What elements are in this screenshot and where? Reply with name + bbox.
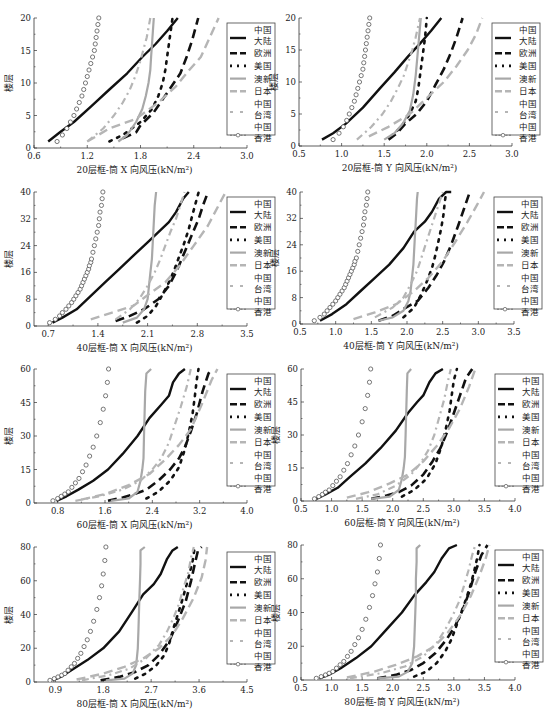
- y-tick-label: 40: [20, 187, 31, 197]
- legend-label: 中国: [254, 376, 272, 386]
- x-tick-label: 3.0: [447, 504, 461, 514]
- y-tick-label: 40: [287, 608, 298, 618]
- x-tick-label: 0.9: [49, 685, 63, 695]
- x-tick-label: 0.7: [41, 329, 55, 339]
- legend-label: 澳新: [519, 74, 537, 84]
- series-group: [48, 16, 218, 144]
- y-tick-label: 60: [287, 364, 298, 374]
- y-tick-label: 5: [291, 109, 296, 119]
- x-tick-label: 2.5: [417, 683, 431, 693]
- legend-label: 美国: [254, 61, 272, 71]
- figure-grid: 0.61.21.82.43.005101520楼层20层框-筒 X 向风压(kN…: [0, 0, 546, 711]
- y-tick-label: 80: [287, 540, 298, 550]
- legend-label: 中国: [521, 199, 539, 209]
- x-axis-label: 40层框-筒 X 向风压(kN/m²): [76, 342, 192, 353]
- x-axis-label: 40层框-筒 Y 向风压(kN/m²): [343, 340, 459, 351]
- legend-label: 香港: [254, 307, 272, 317]
- legend-label: 香港: [254, 133, 272, 143]
- y-tick-label: 80: [20, 542, 31, 552]
- legend-label: 美国: [519, 61, 537, 71]
- legend-label: 中国: [254, 99, 272, 109]
- x-tick-label: 2.5: [436, 327, 450, 337]
- series-group: [48, 545, 207, 683]
- legend-label: 香港: [522, 484, 540, 494]
- y-tick-label: 0: [26, 498, 31, 508]
- legend-label: 中国: [254, 473, 272, 483]
- y-tick-label: 15: [20, 46, 31, 56]
- y-axis-label: 楼层: [3, 74, 14, 92]
- x-tick-label: 1.0: [325, 504, 339, 514]
- y-tick-label: 30: [287, 430, 298, 440]
- x-tick-label: 1.0: [325, 683, 339, 693]
- x-axis-label: 60层框-筒 Y 向风压(kN/m²): [344, 517, 460, 528]
- series-美国: [402, 369, 457, 497]
- y-tick-label: 0: [292, 319, 297, 329]
- legend-label: 欧洲: [522, 399, 540, 409]
- x-tick-label: 1.8: [96, 685, 110, 695]
- legend-label: 中国: [254, 651, 272, 661]
- legend-label: 中国: [254, 628, 272, 638]
- series-欧洲: [379, 192, 470, 321]
- x-tick-label: 2.4: [187, 151, 201, 161]
- legend-label: 澳新: [522, 601, 540, 611]
- series-欧洲: [371, 369, 472, 499]
- legend-label: 大陆: [521, 210, 539, 220]
- x-tick-label: 1.2: [80, 151, 94, 161]
- x-tick-label: 3.5: [507, 327, 521, 337]
- x-tick-label: 3.5: [478, 683, 492, 693]
- series-中国香港: [51, 367, 111, 503]
- legend-label: 大陆: [254, 565, 272, 575]
- y-tick-label: 15: [287, 463, 298, 473]
- legend-label: 欧洲: [254, 222, 272, 232]
- y-tick-label: 16: [286, 266, 297, 276]
- legend-label: 欧洲: [254, 577, 272, 587]
- y-axis-label: 楼层: [269, 249, 280, 267]
- chart-c20y: 0.51.01.52.02.53.005101520楼层20层框-筒 Y 向风压…: [268, 13, 540, 173]
- legend-label: 美国: [254, 590, 272, 600]
- legend-label: 美国: [254, 235, 272, 245]
- legend: 中国大陆欧洲美国澳新日本中国台湾中国香港: [227, 197, 275, 317]
- y-tick-label: 20: [285, 13, 296, 23]
- chart-c60y: 0.51.01.52.02.53.03.54.0015304560楼层60层框-…: [270, 364, 543, 528]
- x-tick-label: 4.0: [508, 504, 522, 514]
- legend-label: 日本: [519, 86, 537, 96]
- x-tick-label: 2.5: [463, 149, 477, 159]
- y-tick-label: 45: [287, 397, 298, 407]
- y-tick-label: 24: [286, 240, 297, 250]
- x-tick-label: 2.0: [400, 327, 414, 337]
- chart-canvas: 0.61.21.82.43.005101520楼层20层框-筒 X 向风压(kN…: [0, 0, 546, 711]
- legend-label: 大陆: [519, 36, 537, 46]
- x-tick-label: 2.8: [191, 329, 205, 339]
- series-中国香港: [314, 543, 382, 681]
- series-中国香港: [55, 16, 101, 144]
- x-tick-label: 2.1: [141, 329, 155, 339]
- y-tick-label: 40: [286, 187, 297, 197]
- x-axis-label: 60层框-筒 X 向风压(kN/m²): [76, 519, 192, 530]
- x-tick-label: 1.0: [335, 149, 349, 159]
- legend-label: 香港: [254, 484, 272, 494]
- y-tick-label: 40: [20, 610, 31, 620]
- x-tick-label: 3.5: [240, 329, 254, 339]
- x-tick-label: 2.5: [417, 504, 431, 514]
- series-日本: [81, 369, 217, 500]
- chart-c60x: 0.81.62.43.24.0015304560楼层60层框-筒 X 向风压(k…: [3, 364, 275, 530]
- legend-label: 香港: [521, 307, 539, 317]
- x-tick-label: 3.0: [240, 151, 254, 161]
- series-欧洲: [377, 545, 487, 678]
- legend-label: 日本: [522, 613, 540, 623]
- y-tick-label: 60: [287, 574, 298, 584]
- series-group: [51, 367, 218, 503]
- series-group: [322, 16, 482, 142]
- legend-label: 中国: [519, 122, 537, 132]
- legend-label: 美国: [522, 412, 540, 422]
- x-tick-label: 1.0: [329, 327, 343, 337]
- legend-label: 台湾: [522, 461, 540, 471]
- x-axis-label: 20层框-筒 X 向风压(kN/m²): [76, 164, 192, 175]
- x-tick-label: 2.0: [386, 504, 400, 514]
- y-tick-label: 0: [291, 141, 296, 151]
- series-澳新: [377, 545, 420, 678]
- x-axis-label: 20层框-筒 Y 向风压(kN/m²): [342, 162, 458, 173]
- series-日本: [347, 369, 475, 498]
- legend-label: 美国: [521, 235, 539, 245]
- legend: 中国大陆欧洲美国澳新日本中国台湾中国香港: [227, 374, 275, 494]
